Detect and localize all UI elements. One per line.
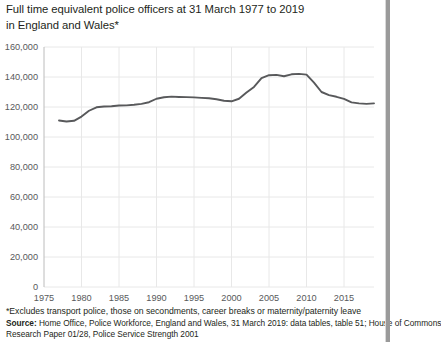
y-tick-label: 100,000 [5,132,38,142]
source-label: Source: [6,318,37,328]
series-line [59,74,374,122]
x-tick-label: 1995 [184,293,204,303]
y-tick-label: 20,000 [10,252,38,262]
data-series [59,74,374,122]
footnotes: *Excludes transport police, those on sec… [6,306,380,340]
chart-canvas: 020,00040,00060,00080,000100,000120,0001… [0,36,380,304]
y-tick-label: 40,000 [10,222,38,232]
x-tick-label: 2000 [221,293,241,303]
line-chart: 020,00040,00060,00080,000100,000120,0001… [0,36,380,304]
x-tick-label: 1985 [109,293,129,303]
gridlines [44,47,374,287]
chart-title-line-2: in England and Wales* [6,18,372,34]
x-tick-label: 2015 [334,293,354,303]
y-tick-label: 120,000 [5,102,38,112]
footnote-asterisk: *Excludes transport police, those on sec… [6,306,380,318]
x-axis-labels: 197519801985199019952000200520102015 [34,293,354,303]
source-line-1: Source: Home Office, Police Workforce, E… [6,318,380,329]
chart-title: Full time equivalent police officers at … [6,2,372,33]
x-tick-label: 1975 [34,293,54,303]
x-tick-label: 2010 [296,293,316,303]
y-tick-label: 160,000 [5,42,38,52]
scrollbar-thumb[interactable] [386,0,390,342]
scrollbar-track[interactable] [386,0,390,342]
y-tick-label: 140,000 [5,72,38,82]
y-tick-label: 80,000 [10,162,38,172]
source-text: Home Office, Police Workforce, England a… [37,318,441,328]
y-axis-labels: 020,00040,00060,00080,000100,000120,0001… [5,42,38,292]
y-tick-label: 60,000 [10,192,38,202]
y-tick-label: 0 [33,282,38,292]
x-tick-label: 2005 [259,293,279,303]
source-line-2: Research Paper 01/28, Police Service Str… [6,329,380,340]
chart-title-line-1: Full time equivalent police officers at … [6,2,372,18]
x-tick-label: 1980 [71,293,91,303]
x-tick-label: 1990 [146,293,166,303]
